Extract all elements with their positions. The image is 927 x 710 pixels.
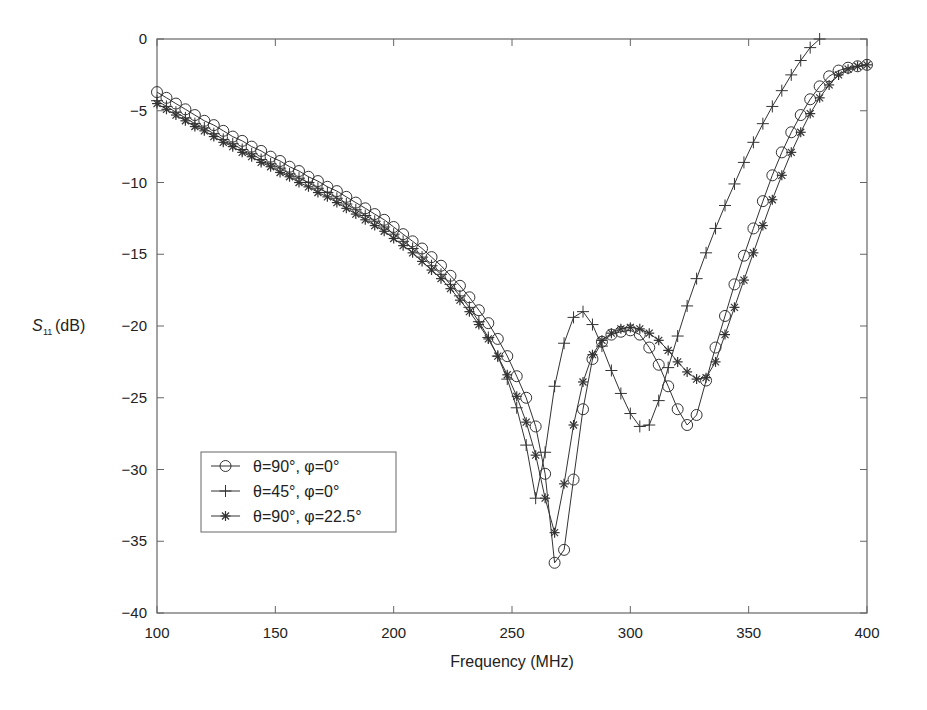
x-tick-label: 100 (144, 624, 169, 641)
x-tick-label: 250 (499, 624, 524, 641)
y-axis-title-subscript: 11 (43, 327, 52, 337)
y-tick-label: −40 (122, 604, 147, 621)
x-tick-label: 150 (263, 624, 288, 641)
y-axis-title: S 11 (dB) (32, 317, 85, 337)
y-tick-label: −5 (130, 102, 147, 119)
x-tick-label: 300 (618, 624, 643, 641)
y-axis-title-main: S (32, 317, 43, 334)
x-tick-label: 400 (854, 624, 879, 641)
legend: θ=90°, φ=0°θ=45°, φ=0°θ=90°, φ=22.5° (201, 452, 396, 532)
y-tick-label: −20 (122, 317, 147, 334)
legend-label: θ=90°, φ=0° (253, 458, 339, 475)
y-tick-label: 0 (139, 30, 147, 47)
y-tick-label: −35 (122, 532, 147, 549)
y-axis-title-unit: (dB) (55, 317, 85, 334)
y-tick-label: −30 (122, 461, 147, 478)
legend-label: θ=90°, φ=22.5° (253, 508, 362, 525)
s11-frequency-chart: 100150200250300350400 0−5−10−15−20−25−30… (0, 0, 927, 710)
x-tick-label: 200 (381, 624, 406, 641)
y-tick-label: −10 (122, 174, 147, 191)
y-tick-label: −15 (122, 245, 147, 262)
y-tick-label: −25 (122, 389, 147, 406)
x-axis-title: Frequency (MHz) (450, 653, 574, 670)
x-tick-label: 350 (736, 624, 761, 641)
legend-label: θ=45°, φ=0° (253, 483, 339, 500)
